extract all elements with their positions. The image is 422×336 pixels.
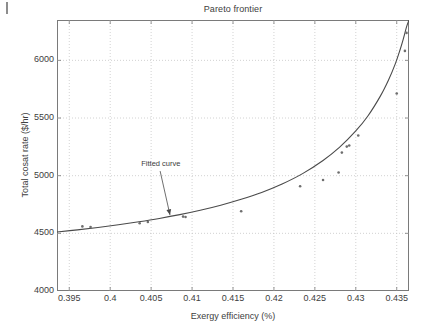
pareto-frontier-figure: Pareto frontier 40004500500055006000 0.3… xyxy=(0,0,422,336)
x-axis-tick-label: 0.43 xyxy=(334,293,378,303)
y-axis-title: Total cosat rate ($/hr) xyxy=(20,65,30,245)
plot-canvas xyxy=(57,20,409,291)
x-axis-tick-label: 0.395 xyxy=(47,293,91,303)
x-axis-tick-label: 0.425 xyxy=(293,293,337,303)
x-axis-tick-label: 0.405 xyxy=(129,293,173,303)
page-edge-mark xyxy=(6,2,8,14)
fitted-curve-annotation-label: Fitted curve xyxy=(141,159,180,168)
annotation-arrow xyxy=(160,171,171,215)
chart-title: Pareto frontier xyxy=(57,4,409,14)
x-axis-title: Exergy efficiency (%) xyxy=(57,311,409,321)
y-axis-tick-label: 6000 xyxy=(8,54,54,64)
y-axis-tick-label: 4500 xyxy=(8,227,54,237)
y-axis-tick-label: 5000 xyxy=(8,170,54,180)
grid-layer xyxy=(57,20,409,291)
x-axis-tick-label: 0.42 xyxy=(252,293,296,303)
x-axis-tick-label: 0.41 xyxy=(170,293,214,303)
x-axis-tick-label: 0.435 xyxy=(375,293,419,303)
x-axis-tick-label: 0.415 xyxy=(211,293,255,303)
x-axis-ticks: 0.3950.40.4050.410.4150.420.4250.430.435 xyxy=(57,293,409,309)
x-axis-tick-label: 0.4 xyxy=(88,293,132,303)
y-axis-tick-label: 5500 xyxy=(8,112,54,122)
